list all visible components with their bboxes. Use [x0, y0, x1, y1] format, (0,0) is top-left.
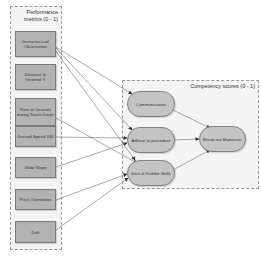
title-line-1: Performance — [24, 9, 58, 16]
performance-metrics-title: Performance metrics (0 - 1) — [24, 9, 58, 23]
outcome-break-out-maneuver: Break-out Maneuver — [199, 126, 246, 152]
competency-scores-title: Competency scores (0 - 1) — [190, 83, 255, 90]
metric-glide-slope: Glide Slope — [15, 157, 56, 178]
competency-stick-rudder-skills: Stick & Rudder Skills — [127, 160, 175, 186]
title-line-2: metrics (0 - 1) — [24, 16, 58, 23]
competency-adhere-to-procedure: Adhere to procedure — [127, 127, 175, 153]
metric-ground-speed: Ground Speed 180 — [15, 126, 56, 147]
metric-rate-of-descent: Rate of Descent during Touch-Down — [15, 98, 56, 126]
metric-pitch-orientation: Pitch Orientation — [15, 189, 56, 210]
metric-instructor-led-observation: Instructor-Led Observation — [15, 31, 56, 57]
competency-communication: Communication — [127, 91, 175, 117]
metric-drift: Drift — [15, 221, 56, 243]
metric-distance-to-inverted-y: Distance to Inverted Y — [15, 64, 56, 90]
